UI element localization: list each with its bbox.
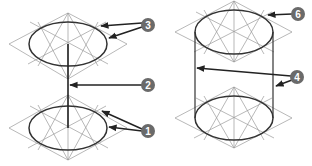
callout-2: 2: [141, 78, 155, 92]
callout-6: 6: [291, 7, 305, 21]
callout-3-label: 3: [145, 20, 151, 31]
callout-2-label: 2: [145, 80, 151, 91]
callout-3: 3: [141, 18, 155, 32]
right-top-ellipse-construction: [175, 1, 292, 62]
isometric-ellipse-diagram: 3 2 1 6 4: [0, 0, 312, 166]
callout-4-label: 4: [294, 72, 300, 83]
callout-6-label: 6: [295, 9, 301, 20]
callout-4: 4: [290, 70, 304, 84]
callout-1: 1: [141, 124, 155, 138]
right-bottom-ellipse-construction: [175, 87, 292, 148]
callout-1-label: 1: [145, 126, 151, 137]
